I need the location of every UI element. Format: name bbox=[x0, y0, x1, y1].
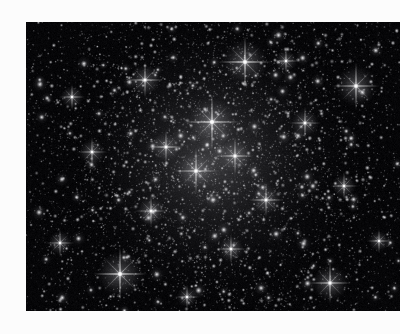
star-field-canvas bbox=[26, 22, 400, 311]
star-cluster-photo bbox=[26, 22, 400, 311]
page-root: globular star cluster bbox=[0, 0, 400, 334]
